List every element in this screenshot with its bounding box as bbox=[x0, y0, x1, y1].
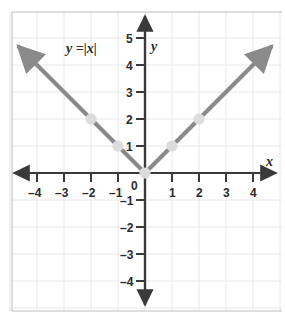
y-tick-label-neg2: –2 bbox=[120, 222, 133, 234]
y-tick-label-neg1: –1 bbox=[120, 195, 133, 207]
data-point bbox=[193, 113, 204, 124]
x-axis-label: x bbox=[266, 155, 273, 169]
x-tick-label-4: 4 bbox=[250, 187, 257, 199]
y-tick-label-5: 5 bbox=[126, 33, 133, 45]
x-tick-label-neg4: –4 bbox=[28, 187, 41, 199]
y-tick-label-2: 2 bbox=[126, 114, 133, 126]
x-tick-label-1: 1 bbox=[169, 187, 176, 199]
y-tick-label-3: 3 bbox=[126, 87, 133, 99]
x-tick-label-2: 2 bbox=[196, 187, 203, 199]
data-point bbox=[85, 113, 96, 124]
data-point bbox=[112, 140, 123, 151]
x-tick-label-neg3: –3 bbox=[55, 187, 68, 199]
data-point bbox=[139, 167, 150, 178]
equation-label: y =|x| bbox=[66, 42, 97, 56]
y-tick-label-neg4: –4 bbox=[120, 276, 133, 288]
y-tick-label-4: 4 bbox=[126, 60, 133, 72]
graph-canvas bbox=[0, 0, 285, 318]
x-tick-label-neg2: –2 bbox=[82, 187, 95, 199]
coordinate-plane-figure: y =|x| y x 0 –4 –3 –2 –1 1 2 3 4 5 4 3 2… bbox=[0, 0, 285, 318]
x-tick-label-3: 3 bbox=[223, 187, 230, 199]
y-tick-label-1: 1 bbox=[126, 141, 133, 153]
data-point bbox=[166, 140, 177, 151]
y-axis-label: y bbox=[151, 40, 157, 54]
plot-background bbox=[0, 0, 285, 318]
y-tick-label-neg3: –3 bbox=[120, 249, 133, 261]
origin-label: 0 bbox=[131, 180, 138, 192]
